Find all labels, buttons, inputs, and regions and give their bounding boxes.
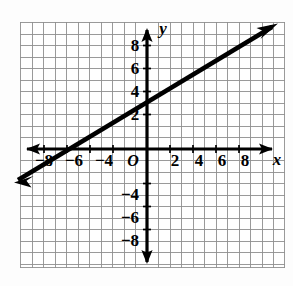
x-tick-label-6: 6 <box>218 152 227 169</box>
x-axis-label: x <box>273 151 282 168</box>
y-tick-label-8: 8 <box>131 37 140 54</box>
x-tick-label-4: 4 <box>195 152 204 169</box>
x-tick-label-neg6: −6 <box>65 152 83 169</box>
y-tick-label-neg8: −8 <box>121 232 139 249</box>
y-tick-label-neg6: −6 <box>121 209 139 226</box>
coordinate-plane-figure: −8 −6 −4 2 4 6 8 8 6 4 2 −4 −6 −8 O x y <box>0 0 293 286</box>
coordinate-plane-svg <box>0 0 293 286</box>
y-tick-label-4: 4 <box>131 83 140 100</box>
y-tick-label-neg4: −4 <box>121 186 139 203</box>
x-tick-label-neg4: −4 <box>95 152 113 169</box>
y-tick-label-2: 2 <box>131 106 140 123</box>
plot-background <box>20 22 285 268</box>
origin-label: O <box>127 153 139 169</box>
y-tick-label-6: 6 <box>131 60 140 77</box>
x-tick-label-8: 8 <box>241 152 250 169</box>
y-axis-label: y <box>159 20 167 37</box>
x-tick-label-2: 2 <box>171 152 180 169</box>
x-tick-label-neg8: −8 <box>35 152 53 169</box>
